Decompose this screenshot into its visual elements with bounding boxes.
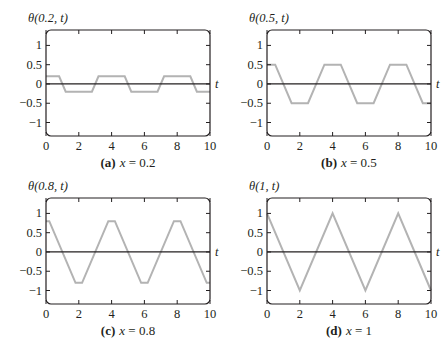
y-tick-label: 0.5 [26, 58, 42, 72]
figure: θ(0.2, t)t024681010.50−0.5−1(a)x = 0.2 θ… [0, 0, 446, 347]
x-tick-label: 6 [362, 307, 368, 321]
panel-a: θ(0.2, t)t024681010.50−0.5−1(a)x = 0.2 [19, 11, 219, 170]
x-tick-label: 0 [43, 139, 49, 153]
x-tick-label: 10 [204, 307, 217, 321]
x-tick-label: 2 [76, 307, 82, 321]
y-tick-label: −0.5 [19, 264, 42, 278]
x-tick-label: 8 [174, 307, 180, 321]
panel-d: θ(1, t)t024681010.50−0.5−1(d)x = 1 [240, 179, 440, 338]
x-tick-label: 8 [174, 139, 180, 153]
y-tick-label: 0.5 [26, 226, 42, 240]
y-axis-title: θ(0.5, t) [249, 11, 289, 25]
panel-label: (d) [326, 323, 342, 338]
caption-value: = 0.5 [347, 155, 377, 170]
x-tick-label: 10 [204, 139, 217, 153]
caption-value: = 0.2 [125, 155, 155, 170]
x-tick-label: 0 [264, 307, 270, 321]
x-tick-label: 8 [395, 307, 401, 321]
x-tick-label: 2 [297, 307, 303, 321]
panel-label: (c) [101, 323, 115, 338]
y-tick-label: 0 [36, 77, 42, 91]
caption-value: = 0.8 [125, 323, 155, 338]
x-tick-label: 10 [425, 307, 438, 321]
y-tick-label: 1 [36, 206, 42, 220]
y-axis-title: θ(1, t) [249, 179, 279, 193]
x-axis-label: t [215, 245, 219, 259]
y-tick-label: 0 [257, 77, 263, 91]
x-tick-label: 8 [395, 139, 401, 153]
panel-caption: (b)x = 0.5 [321, 155, 377, 170]
caption-value: = 1 [352, 323, 372, 338]
y-tick-label: 0 [257, 245, 263, 259]
y-axis-title: θ(0.2, t) [28, 11, 68, 25]
y-tick-label: 0 [36, 245, 42, 259]
x-tick-label: 2 [297, 139, 303, 153]
y-tick-label: −0.5 [19, 96, 42, 110]
x-axis-label: t [215, 77, 219, 91]
x-tick-label: 6 [362, 139, 368, 153]
panel-caption: (c)x = 0.8 [101, 323, 155, 338]
y-tick-label: 1 [36, 38, 42, 52]
y-tick-label: −1 [250, 116, 263, 130]
panel-label: (b) [321, 155, 337, 170]
y-tick-label: −1 [29, 116, 42, 130]
y-tick-label: −1 [29, 284, 42, 298]
x-tick-label: 2 [76, 139, 82, 153]
y-tick-label: −1 [250, 284, 263, 298]
panel-label: (a) [100, 155, 115, 170]
x-tick-label: 4 [329, 139, 336, 153]
panel-caption: (d)x = 1 [326, 323, 372, 338]
panel-b: θ(0.5, t)t024681010.50−0.5−1(b)x = 0.5 [240, 11, 440, 170]
y-axis-title: θ(0.8, t) [28, 179, 68, 193]
panel-c: θ(0.8, t)t024681010.50−0.5−1(c)x = 0.8 [19, 179, 219, 338]
x-tick-label: 6 [141, 139, 147, 153]
x-tick-label: 4 [108, 139, 115, 153]
y-tick-label: −0.5 [240, 264, 263, 278]
y-tick-label: 0.5 [247, 58, 263, 72]
x-tick-label: 4 [329, 307, 336, 321]
y-tick-label: −0.5 [240, 96, 263, 110]
x-tick-label: 0 [264, 139, 270, 153]
x-tick-label: 4 [108, 307, 115, 321]
x-tick-label: 10 [425, 139, 438, 153]
x-axis-label: t [436, 77, 440, 91]
x-tick-label: 0 [43, 307, 49, 321]
y-tick-label: 0.5 [247, 226, 263, 240]
x-axis-label: t [436, 245, 440, 259]
panel-caption: (a)x = 0.2 [100, 155, 155, 170]
x-tick-label: 6 [141, 307, 147, 321]
y-tick-label: 1 [257, 206, 263, 220]
y-tick-label: 1 [257, 38, 263, 52]
